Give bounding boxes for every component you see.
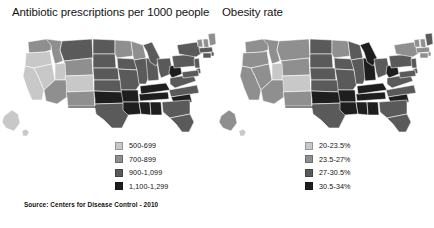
- states-group-obesity: [219, 33, 433, 136]
- state-wy: [64, 58, 93, 76]
- legend-swatch: [115, 155, 123, 163]
- state-hi: [239, 129, 246, 136]
- legend-antibiotic: 500-699 700-899 900-1,099 1,100-1,299: [115, 139, 168, 193]
- state-mo: [335, 69, 357, 90]
- legend-label: 900-1,099: [129, 168, 162, 177]
- state-ks: [311, 80, 339, 92]
- panel-title-obesity: Obesity rate: [222, 6, 283, 18]
- legend-swatch: [115, 182, 123, 190]
- legend-swatch: [305, 169, 313, 177]
- state-ks: [94, 80, 122, 92]
- state-la: [123, 102, 141, 115]
- state-nm: [283, 91, 312, 108]
- legend-swatch: [305, 142, 313, 150]
- legend-item: 30.5-34%: [305, 180, 351, 194]
- state-mo: [118, 69, 140, 90]
- states-group-antibiotic: [2, 33, 216, 136]
- state-ne: [93, 68, 119, 80]
- state-ne: [310, 68, 336, 80]
- state-mn: [332, 40, 350, 58]
- legend-item: 23.5-27%: [305, 153, 351, 167]
- state-ct: [203, 53, 211, 58]
- state-tx: [68, 103, 129, 128]
- state-wi: [131, 41, 146, 60]
- state-ak: [2, 110, 20, 131]
- state-nj: [194, 58, 200, 68]
- legend-label: 500-699: [129, 141, 156, 150]
- legend-obesity: 20-23.5% 23.5-27% 27-30.5% 30.5-34%: [305, 139, 351, 193]
- legend-label: 1,100-1,299: [129, 182, 168, 191]
- state-ut: [55, 63, 66, 80]
- legend-swatch: [115, 169, 123, 177]
- map-obesity: [217, 28, 434, 140]
- state-md: [182, 70, 199, 78]
- state-ms: [139, 102, 151, 115]
- state-ri: [211, 52, 214, 56]
- state-al: [150, 102, 162, 115]
- state-sd: [310, 54, 333, 68]
- source-note: Source: Centers for Disease Control - 20…: [24, 201, 158, 208]
- legend-label: 27-30.5%: [319, 168, 351, 177]
- legend-swatch: [115, 142, 123, 150]
- state-vt: [197, 39, 203, 47]
- state-wi: [348, 41, 363, 60]
- state-ar: [121, 90, 139, 102]
- legend-label: 23.5-27%: [319, 155, 351, 164]
- state-ri: [428, 52, 431, 56]
- state-nd: [310, 39, 332, 54]
- figure-root: Antibiotic prescriptions per 1000 people…: [0, 0, 434, 228]
- legend-label: 30.5-34%: [319, 182, 351, 191]
- legend-swatch: [305, 182, 313, 190]
- state-wy: [281, 58, 310, 76]
- state-ms: [356, 102, 368, 115]
- state-co: [65, 75, 94, 92]
- legend-item: 700-899: [115, 153, 168, 167]
- choropleth-svg-obesity: [217, 28, 434, 140]
- state-ut: [272, 63, 283, 80]
- state-al: [367, 102, 379, 115]
- legend-item: 900-1,099: [115, 166, 168, 180]
- state-nj: [411, 58, 417, 68]
- state-tx: [285, 103, 346, 128]
- state-ct: [420, 53, 428, 58]
- state-co: [282, 75, 311, 92]
- state-hi: [22, 129, 29, 136]
- state-nh: [420, 39, 426, 48]
- panel-obesity: Obesity rate 20-23.5% 23.5-27% 27-30.5% …: [217, 0, 434, 228]
- legend-item: 1,100-1,299: [115, 180, 168, 194]
- state-sd: [93, 54, 116, 68]
- state-la: [340, 102, 358, 115]
- state-ak: [219, 110, 237, 131]
- choropleth-svg-antibiotic: [0, 28, 217, 140]
- state-nd: [93, 39, 115, 54]
- state-me: [425, 33, 433, 46]
- legend-item: 27-30.5%: [305, 166, 351, 180]
- panel-antibiotic: Antibiotic prescriptions per 1000 people…: [0, 0, 217, 228]
- legend-swatch: [305, 155, 313, 163]
- panel-title-antibiotic: Antibiotic prescriptions per 1000 people: [12, 6, 209, 18]
- legend-item: 500-699: [115, 139, 168, 153]
- state-me: [208, 33, 216, 46]
- state-mn: [115, 40, 133, 58]
- legend-item: 20-23.5%: [305, 139, 351, 153]
- state-nm: [66, 91, 95, 108]
- state-vt: [414, 39, 420, 47]
- state-ar: [338, 90, 356, 102]
- legend-label: 20-23.5%: [319, 141, 351, 150]
- state-nh: [203, 39, 209, 48]
- map-antibiotic: [0, 28, 217, 140]
- state-md: [399, 70, 416, 78]
- state-mt: [60, 39, 93, 61]
- state-mt: [277, 39, 310, 61]
- legend-label: 700-899: [129, 155, 156, 164]
